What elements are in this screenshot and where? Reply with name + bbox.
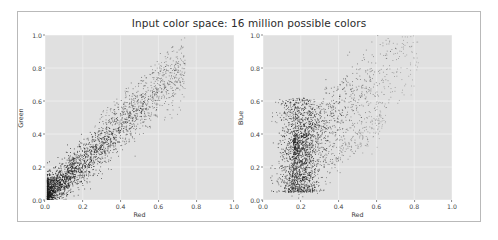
- tick-mark: [261, 134, 263, 135]
- tick-mark: [338, 200, 339, 202]
- ytick-label: 0.8: [32, 65, 42, 72]
- scatter-plot-red-green: 1.0 0.8 0.6 0.4 0.2 0.0 0.0 0.2 0.4 0.6 …: [45, 35, 234, 200]
- figure-title: Input color space: 16 million possible c…: [18, 17, 480, 29]
- xtick-label: 0.6: [153, 203, 163, 210]
- ytick-label: 1.0: [250, 32, 260, 39]
- ytick-label: 0.6: [32, 98, 42, 105]
- y-axis-label-blue: Blue: [237, 110, 245, 124]
- tick-mark: [43, 167, 45, 168]
- xtick-label: 0.8: [409, 203, 419, 210]
- xtick-label: 0.4: [334, 203, 344, 210]
- tick-mark: [43, 134, 45, 135]
- ytick-label: 0.8: [250, 65, 260, 72]
- xtick-label: 0.4: [116, 203, 126, 210]
- tick-mark: [263, 200, 264, 202]
- x-axis-label-red: Red: [263, 211, 452, 219]
- data-points-red-blue: [270, 35, 418, 198]
- scatter-plot-red-blue: 1.0 0.8 0.6 0.4 0.2 0.0 0.0 0.2 0.4 0.6 …: [263, 35, 452, 200]
- gridlines-red-green: [45, 35, 234, 200]
- tick-mark: [43, 68, 45, 69]
- plot-area-red-green: [45, 35, 234, 200]
- tick-mark: [120, 200, 121, 202]
- tick-mark: [300, 200, 301, 202]
- tick-mark: [376, 200, 377, 202]
- ytick-label: 0.4: [250, 131, 260, 138]
- tick-mark: [196, 200, 197, 202]
- tick-mark: [43, 35, 45, 36]
- tick-mark: [43, 101, 45, 102]
- xtick-label: 0.0: [258, 203, 268, 210]
- xtick-label: 1.0: [447, 203, 457, 210]
- tick-mark: [261, 68, 263, 69]
- tick-mark: [261, 35, 263, 36]
- xtick-label: 0.0: [40, 203, 50, 210]
- tick-mark: [158, 200, 159, 202]
- tick-mark: [261, 101, 263, 102]
- xtick-label: 0.2: [78, 203, 88, 210]
- x-axis-label-red: Red: [45, 211, 234, 219]
- ytick-label: 0.2: [250, 164, 260, 171]
- ytick-label: 0.2: [32, 164, 42, 171]
- gridlines-red-blue: [263, 35, 452, 200]
- tick-mark: [45, 200, 46, 202]
- tick-mark: [82, 200, 83, 202]
- tick-mark: [234, 200, 235, 202]
- tick-mark: [452, 200, 453, 202]
- scatter-canvas-red-green: [45, 35, 234, 200]
- plot-area-red-blue: [263, 35, 452, 200]
- tick-mark: [261, 167, 263, 168]
- scatter-canvas-red-blue: [263, 35, 452, 200]
- matplotlib-figure: Input color space: 16 million possible c…: [17, 11, 481, 222]
- data-points-red-green: [47, 38, 186, 201]
- xtick-label: 0.6: [371, 203, 381, 210]
- xtick-label: 1.0: [229, 203, 239, 210]
- xtick-label: 0.8: [191, 203, 201, 210]
- y-axis-label-green: Green: [16, 108, 24, 127]
- ytick-label: 0.6: [250, 98, 260, 105]
- ytick-label: 0.4: [32, 131, 42, 138]
- tick-mark: [414, 200, 415, 202]
- xtick-label: 0.2: [296, 203, 306, 210]
- ytick-label: 1.0: [32, 32, 42, 39]
